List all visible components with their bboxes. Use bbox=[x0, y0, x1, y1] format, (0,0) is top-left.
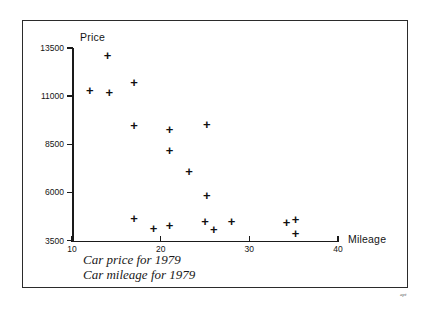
data-point-marker: + bbox=[164, 124, 175, 135]
y-axis-tick-label: 6000 bbox=[24, 188, 64, 197]
caption-line-1: Car price for 1979 bbox=[83, 253, 195, 268]
y-axis-tick-label: 3500 bbox=[24, 237, 64, 246]
y-axis-line bbox=[72, 48, 74, 242]
corner-mark: apt bbox=[400, 292, 406, 297]
x-axis-title: Mileage bbox=[348, 233, 386, 245]
x-axis-tick bbox=[337, 236, 339, 242]
y-axis-tick-label: 13500 bbox=[24, 44, 64, 53]
figure-page: Price Mileage 3500600085001100013500 102… bbox=[0, 0, 431, 309]
x-axis-tick bbox=[71, 236, 73, 242]
data-point-marker: + bbox=[148, 223, 159, 234]
y-axis-tick-label: 8500 bbox=[24, 140, 64, 149]
data-point-marker: + bbox=[104, 87, 115, 98]
y-axis-tick bbox=[67, 47, 73, 49]
x-axis-tick-label: 10 bbox=[59, 245, 85, 254]
figure-frame: Price Mileage 3500600085001100013500 102… bbox=[22, 20, 408, 288]
data-point-marker: + bbox=[102, 50, 113, 61]
data-point-marker: + bbox=[129, 120, 140, 131]
data-point-marker: + bbox=[201, 119, 212, 130]
data-point-marker: + bbox=[164, 220, 175, 231]
y-axis-tick bbox=[67, 192, 73, 194]
data-point-marker: + bbox=[226, 216, 237, 227]
x-axis-tick-label: 30 bbox=[236, 245, 262, 254]
scatter-plot: Price Mileage 3500600085001100013500 102… bbox=[23, 21, 409, 289]
x-axis-tick bbox=[160, 236, 162, 242]
x-axis-tick-label: 40 bbox=[325, 245, 351, 254]
data-point-marker: + bbox=[208, 224, 219, 235]
data-point-marker: + bbox=[201, 190, 212, 201]
caption-line-2: Car mileage for 1979 bbox=[83, 268, 195, 283]
data-point-marker: + bbox=[290, 228, 301, 239]
data-point-marker: + bbox=[129, 213, 140, 224]
figure-caption: Car price for 1979 Car mileage for 1979 bbox=[83, 253, 195, 282]
data-point-marker: + bbox=[129, 77, 140, 88]
y-axis-tick bbox=[67, 95, 73, 97]
data-point-marker: + bbox=[184, 166, 195, 177]
data-point-marker: + bbox=[290, 214, 301, 225]
x-axis-tick bbox=[249, 236, 251, 242]
data-point-marker: + bbox=[164, 145, 175, 156]
data-point-marker: + bbox=[84, 85, 95, 96]
y-axis-title: Price bbox=[80, 31, 105, 43]
y-axis-tick bbox=[67, 144, 73, 146]
y-axis-tick-label: 11000 bbox=[24, 92, 64, 101]
